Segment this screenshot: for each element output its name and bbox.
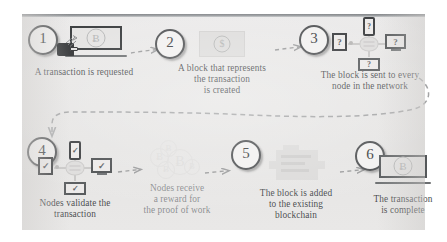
dollar-symbol: $ [214,36,231,53]
coin-small-right: Ƀ [184,159,200,175]
block-line-1 [281,155,311,158]
step-5-reward-caption: Nodes receive a reward for the proof of … [141,183,213,217]
bitcoin-symbol: Ƀ [87,29,106,48]
laptop-complete-icon: Ƀ [379,155,427,184]
node-device-phone-top: ✓ [69,141,81,160]
network-node-dot-left [55,165,59,169]
step-3-badge: 3 [299,25,329,55]
block-body [276,150,318,180]
network-node-dot-left [349,41,353,45]
step-2-badge: 2 [155,29,185,59]
node-network-validated-icon: ✓ ✓ ✓ ✓ [38,143,112,193]
node-device-monitor-right: ? [385,34,406,49]
node-device-tablet-left: ✓ [38,157,53,175]
node-check-glyph: ✓ [66,184,84,193]
step-1-badge: 1 [28,25,58,55]
node-device-tablet-left: ? [332,33,347,51]
coin-small-bottom: Ƀ [157,161,175,179]
node-check-glyph: ✓ [71,143,79,158]
diagram-canvas: 1 Ƀ A transaction is requested 2 $ A blo… [0,0,447,242]
step-4-caption: Nodes validate the transaction [11,198,139,220]
block-line-2 [281,162,305,165]
node-status-glyph: ? [387,36,404,47]
step-5-badge: 5 [231,140,261,170]
step-1-caption: A transaction is requested [18,67,150,78]
step-2-caption: A block that represents the transaction … [160,63,284,97]
laptop-base [375,182,432,184]
node-check-glyph: ✓ [93,160,110,171]
node-check-glyph: ✓ [40,159,51,173]
laptop-base [65,55,126,57]
bitcoin-symbol: Ƀ [394,157,413,176]
bitcoin-coins-cluster-icon: Ƀ Ƀ Ƀ Ƀ Ƀ [148,137,204,181]
network-hub-server [360,37,379,52]
step-7-caption: The transaction is complete [355,194,447,216]
network-hub-server [66,161,85,176]
node-device-phone-top: ? [363,17,375,36]
node-status-glyph: ? [360,60,378,69]
node-device-tablet-bottom: ✓ [64,182,86,195]
node-status-glyph: ? [334,35,345,49]
node-status-glyph: ? [365,19,373,34]
laptop-with-bitcoin-icon: Ƀ [70,26,122,57]
step-3-caption: The block is sent to every node in the n… [303,70,437,92]
block-line-3 [281,169,309,172]
blockchain-block-icon [269,150,325,180]
step-6-caption: The block is added to the existing block… [240,188,352,222]
node-network-icon: ? ? ? ? [332,19,406,69]
node-device-monitor-right: ✓ [91,158,112,173]
transfer-spark-icon [64,32,86,48]
block-bill-icon: $ [199,31,245,57]
